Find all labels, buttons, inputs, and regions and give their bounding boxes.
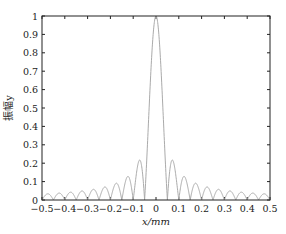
x-axis-label: x/mm bbox=[142, 216, 170, 227]
axis-ticks bbox=[42, 16, 270, 200]
x-tick-label: −0.2 bbox=[99, 203, 122, 214]
axes-frame bbox=[42, 16, 270, 200]
x-tick-label: 0.3 bbox=[217, 203, 232, 214]
x-tick-label: 0.5 bbox=[262, 203, 277, 214]
y-tick-label: 0.4 bbox=[23, 121, 38, 132]
x-tick-label: −0.1 bbox=[122, 203, 145, 214]
amplitude-chart: −0.5−0.4−0.3−0.2−0.100.10.20.30.40.5 00.… bbox=[0, 0, 286, 234]
x-tick-label: 0.2 bbox=[194, 203, 209, 214]
x-tick-label: 0 bbox=[153, 203, 159, 214]
x-tick-label: 0.4 bbox=[240, 203, 255, 214]
y-tick-label: 0.5 bbox=[23, 103, 38, 114]
y-tick-label: 0.7 bbox=[23, 66, 38, 77]
x-tick-label: −0.3 bbox=[76, 203, 99, 214]
y-tick-label: 0.1 bbox=[23, 176, 38, 187]
y-tick-label: 0.6 bbox=[23, 84, 38, 95]
y-tick-label: 0.8 bbox=[23, 47, 38, 58]
y-tick-labels: 00.10.20.30.40.50.60.70.80.91 bbox=[23, 11, 38, 206]
y-axis-label: 振幅y bbox=[2, 95, 14, 121]
y-tick-label: 0.3 bbox=[23, 139, 38, 150]
y-tick-label: 0 bbox=[32, 195, 38, 206]
x-tick-labels: −0.5−0.4−0.3−0.2−0.100.10.20.30.40.5 bbox=[30, 203, 277, 214]
y-tick-label: 0.2 bbox=[23, 158, 38, 169]
x-tick-label: −0.4 bbox=[53, 203, 76, 214]
y-tick-label: 0.9 bbox=[23, 29, 38, 40]
x-tick-label: 0.1 bbox=[171, 203, 186, 214]
amplitude-curve bbox=[42, 16, 270, 200]
y-tick-label: 1 bbox=[32, 11, 38, 22]
